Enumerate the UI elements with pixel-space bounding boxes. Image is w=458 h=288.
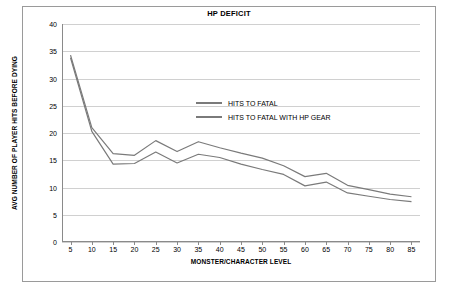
x-tick-mark (411, 242, 412, 245)
data-series-lines (62, 24, 420, 242)
y-axis-label: AVG NUMBER OF PLAYER HITS BEFORE DYING (11, 56, 18, 210)
x-tick-label: 50 (258, 246, 266, 253)
x-tick-mark (220, 242, 221, 245)
x-tick-label: 35 (194, 246, 202, 253)
x-tick-label: 70 (344, 246, 352, 253)
x-tick-label: 55 (280, 246, 288, 253)
y-tick-label: 20 (49, 130, 57, 137)
x-tick-mark (369, 242, 370, 245)
x-tick-label: 20 (131, 246, 139, 253)
legend-swatch-icon (196, 116, 222, 118)
x-tick-label: 25 (152, 246, 160, 253)
plot-area: 0510152025303540 51015202530354045505560… (62, 24, 420, 242)
chart-container: HP DEFICIT AVG NUMBER OF PLAYER HITS BEF… (0, 0, 458, 288)
x-tick-mark (305, 242, 306, 245)
series-line (71, 55, 412, 197)
x-tick-mark (134, 242, 135, 245)
x-tick-mark (262, 242, 263, 245)
x-tick-label: 65 (322, 246, 330, 253)
x-tick-mark (198, 242, 199, 245)
x-tick-label: 85 (408, 246, 416, 253)
y-tick-label: 15 (49, 157, 57, 164)
y-tick-label: 5 (53, 211, 57, 218)
x-tick-label: 5 (69, 246, 73, 253)
y-tick-label: 0 (53, 239, 57, 246)
x-tick-mark (177, 242, 178, 245)
chart-legend: HITS TO FATAL HITS TO FATAL WITH HP GEAR (196, 96, 331, 124)
x-tick-mark (348, 242, 349, 245)
x-tick-label: 75 (365, 246, 373, 253)
x-axis-label: MONSTER/CHARACTER LEVEL (62, 258, 420, 265)
y-tick-label: 35 (49, 48, 57, 55)
series-line (71, 58, 412, 202)
x-tick-label: 60 (301, 246, 309, 253)
y-tick-label: 25 (49, 102, 57, 109)
x-tick-mark (390, 242, 391, 245)
y-tick-label: 40 (49, 21, 57, 28)
legend-item-hits-to-fatal: HITS TO FATAL (196, 96, 331, 110)
legend-label: HITS TO FATAL WITH HP GEAR (228, 114, 331, 121)
x-tick-mark (326, 242, 327, 245)
x-tick-label: 15 (109, 246, 117, 253)
legend-item-hits-to-fatal-with-hp-gear: HITS TO FATAL WITH HP GEAR (196, 110, 331, 124)
x-tick-label: 45 (237, 246, 245, 253)
y-tick-label: 30 (49, 75, 57, 82)
x-tick-label: 80 (386, 246, 394, 253)
x-tick-mark (284, 242, 285, 245)
x-tick-label: 10 (88, 246, 96, 253)
y-tick-label: 10 (49, 184, 57, 191)
x-tick-label: 40 (216, 246, 224, 253)
legend-swatch-icon (196, 102, 222, 104)
x-tick-mark (113, 242, 114, 245)
x-tick-label: 30 (173, 246, 181, 253)
legend-label: HITS TO FATAL (228, 100, 278, 107)
x-tick-mark (71, 242, 72, 245)
x-tick-mark (92, 242, 93, 245)
chart-title: HP DEFICIT (0, 9, 458, 18)
x-tick-mark (241, 242, 242, 245)
x-tick-mark (156, 242, 157, 245)
